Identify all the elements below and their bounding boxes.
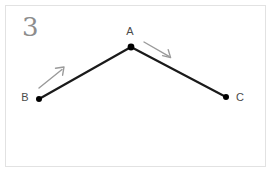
vertex-label-b: B (21, 91, 28, 103)
arrow-a-to-c-shaft (144, 42, 169, 56)
segment-a-to-c (131, 47, 226, 97)
vertex-label-a: A (126, 25, 134, 37)
vertex-dot-a (128, 44, 135, 51)
arrow-b-to-a-shaft (39, 70, 62, 89)
path-diagram: A B C (0, 0, 273, 175)
arrow-b-to-a-icon (39, 67, 64, 88)
vertex-dots (36, 44, 229, 102)
vertex-dot-b (36, 96, 42, 102)
vertex-label-c: C (236, 91, 244, 103)
path-segments (39, 47, 226, 99)
direction-arrows (39, 42, 171, 88)
segment-b-to-a (39, 47, 131, 99)
vertex-dot-c (223, 94, 229, 100)
